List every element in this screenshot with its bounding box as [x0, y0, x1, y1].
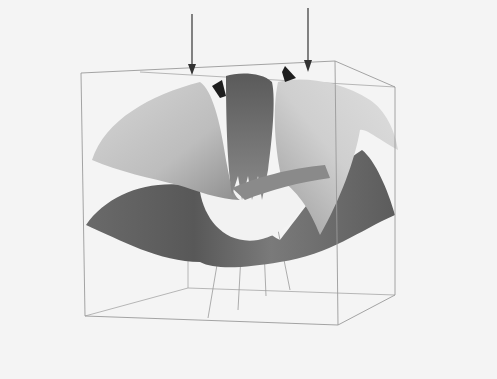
right-tip	[282, 66, 296, 82]
arrow-left-icon	[188, 14, 196, 75]
left-wing	[92, 82, 240, 200]
surface-figure	[0, 0, 497, 379]
arrow-right-icon	[304, 8, 312, 72]
left-tip	[212, 80, 226, 98]
